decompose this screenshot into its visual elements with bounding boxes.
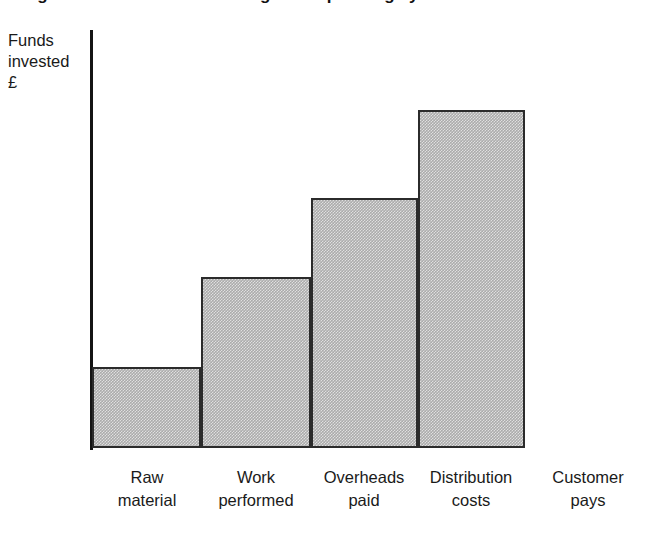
bar-4 [418, 110, 525, 448]
bar-series [92, 0, 532, 450]
bar-2 [201, 277, 311, 448]
category-label-line-2: pays [513, 489, 663, 512]
category-label-5: Customerpays [513, 466, 663, 512]
bar-3 [311, 198, 418, 448]
bar-1 [92, 367, 201, 448]
category-axis-labels: RawmaterialWorkperformedOverheadspaidDis… [0, 466, 664, 526]
plot-area [0, 0, 664, 535]
chart-figure: Figure: Funds invested through the opera… [0, 0, 664, 535]
category-label-line-1: Customer [513, 466, 663, 489]
